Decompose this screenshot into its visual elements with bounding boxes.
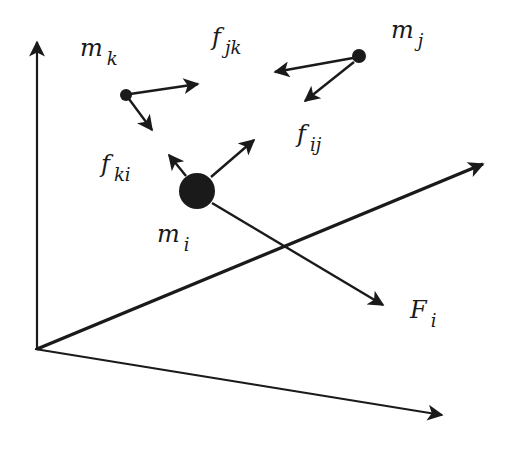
label-mj: mj xyxy=(391,18,423,42)
force-arrow-mk-right xyxy=(130,84,198,94)
label-fij-sub: ij xyxy=(310,134,321,155)
particle-mj xyxy=(352,49,366,63)
label-fij: fij xyxy=(297,122,321,146)
particle-mk xyxy=(120,89,132,101)
label-mk-base: m xyxy=(80,34,103,62)
label-mj-sub: j xyxy=(418,30,424,51)
net-force-arrow-Fi xyxy=(212,203,383,305)
label-mi: mi xyxy=(157,222,190,246)
label-Fi: Fi xyxy=(410,298,436,322)
label-Fi-base: F xyxy=(410,296,427,324)
label-fij-base: f xyxy=(297,120,306,148)
force-diagram-canvas xyxy=(0,0,510,451)
label-mj-base: m xyxy=(391,16,414,44)
label-mi-sub: i xyxy=(184,234,190,255)
label-Fi-sub: i xyxy=(431,310,437,331)
label-fjk-sub: jk xyxy=(225,37,242,58)
label-fki: fki xyxy=(101,152,131,176)
label-fki-base: f xyxy=(101,150,110,178)
label-mk-sub: k xyxy=(107,48,118,69)
label-fki-sub: ki xyxy=(114,164,131,185)
force-arrow-mi-upright xyxy=(211,140,254,177)
label-mk: mk xyxy=(80,36,118,60)
horizontal-axis xyxy=(35,349,442,415)
label-fjk: fjk xyxy=(212,25,241,49)
label-mi-base: m xyxy=(157,220,180,248)
force-arrow-mk-down xyxy=(129,99,152,130)
label-fjk-base: f xyxy=(212,23,221,51)
force-arrow-mi-upleft xyxy=(169,155,186,176)
particle-mi xyxy=(179,173,215,209)
force-arrow-mj-down xyxy=(305,62,354,101)
force-arrow-mj-left xyxy=(275,58,353,72)
